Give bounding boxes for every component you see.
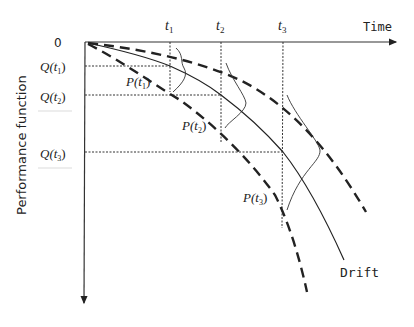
origin-label: 0 [54,36,62,50]
t3-guide-line [282,42,283,228]
svg-text:P(t1): P(t1) [125,74,150,91]
svg-text:P(t3): P(t3) [242,190,267,207]
time-axis-label: Time [363,20,392,34]
q-level-t3: Q(t3) [40,146,66,163]
drift-diagram: Time Performance function 0 t1 t2 t3 Q(t… [0,0,414,327]
svg-text:Q(t2): Q(t2) [40,89,66,106]
svg-text:Q(t3): Q(t3) [40,146,66,163]
density-curve-t2 [225,63,246,128]
svg-text:P(t2): P(t2) [181,118,206,135]
p-label-t1: P(t1) [125,74,150,91]
svg-text:t2: t2 [216,18,224,35]
density-curve-t3 [287,95,320,210]
p-label-t2: P(t2) [181,118,206,135]
lower-bound-curve [88,44,307,292]
performance-axis-label: Performance function [14,75,29,215]
time-tick-t2: t2 [216,18,224,35]
drift-label: Drift [340,265,379,280]
p-label-t3: P(t3) [242,190,267,207]
q-level-t1: Q(t1) [40,59,66,76]
q-level-t2: Q(t2) [40,89,66,106]
time-tick-t1: t1 [165,18,173,35]
performance-axis [84,42,85,303]
time-tick-t3: t3 [278,18,287,35]
svg-text:t1: t1 [165,18,173,35]
svg-text:Q(t1): Q(t1) [40,59,66,76]
svg-text:t3: t3 [278,18,287,35]
